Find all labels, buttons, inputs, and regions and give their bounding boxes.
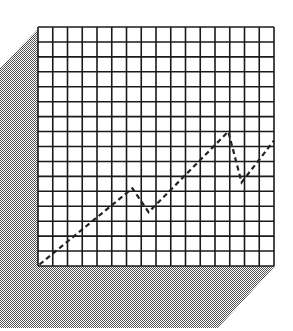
grid-chart-figure <box>0 0 293 331</box>
